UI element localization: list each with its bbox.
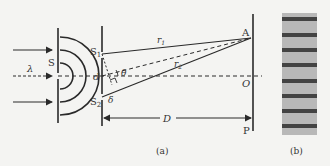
label-path-difference: δ	[108, 95, 113, 105]
label-source: S	[48, 57, 55, 68]
label-slit-separation: d	[93, 71, 99, 82]
young-double-slit-diagram: λ S S1 S2 d r1 r2 θ δ D A O P (a) (b)	[0, 0, 330, 166]
dark-fringe	[282, 79, 317, 83]
dark-fringe	[282, 48, 317, 52]
label-point-A: A	[241, 27, 250, 38]
dark-fringe	[282, 63, 317, 67]
perpendicular	[102, 54, 112, 85]
label-wavelength: λ	[26, 63, 33, 74]
label-screen: P	[243, 125, 250, 136]
caption-b: (b)	[290, 146, 303, 156]
label-origin: O	[242, 78, 250, 89]
panel-a-labels: λ S S1 S2 d r1 r2 θ δ D A O P (a)	[26, 27, 250, 156]
label-path1: r1	[157, 35, 165, 46]
label-slit1: S1	[90, 46, 101, 59]
label-distance: D	[162, 113, 171, 124]
panel-b: (b)	[282, 13, 317, 156]
caption-a: (a)	[156, 146, 168, 156]
dark-fringe	[282, 124, 317, 128]
panel-a	[13, 14, 262, 131]
label-path2: r2	[174, 59, 182, 70]
dark-fringe	[282, 109, 317, 113]
fringe-pattern-background	[282, 13, 317, 135]
label-slit2: S2	[90, 96, 101, 109]
label-angle: θ	[121, 68, 127, 78]
dark-fringe	[282, 94, 317, 98]
theta-arc	[116, 70, 118, 76]
dark-fringe	[282, 17, 317, 21]
dark-fringe	[282, 33, 317, 37]
path-r1	[102, 38, 251, 54]
